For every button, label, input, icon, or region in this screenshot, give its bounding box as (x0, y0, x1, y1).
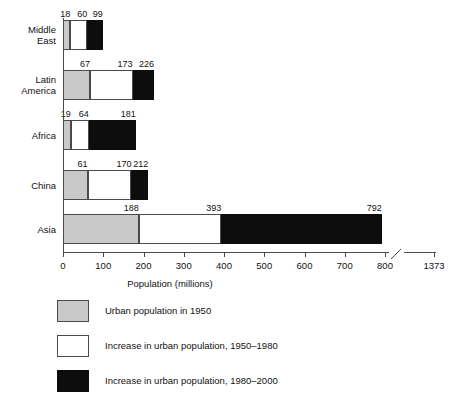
x-axis-tick (434, 252, 435, 257)
x-axis-tick (385, 252, 386, 257)
value-label: 64 (55, 109, 89, 119)
value-label: 181 (102, 109, 136, 119)
value-label: 67 (56, 59, 90, 69)
x-axis-tick-label: 600 (285, 260, 325, 271)
legend-swatch-urban1950 (57, 300, 89, 322)
x-axis-tick (264, 252, 265, 257)
legend-label: Increase in urban population, 1950–1980 (105, 340, 278, 352)
x-axis-tick (184, 252, 185, 257)
bar-segment-inc5080 (139, 214, 222, 244)
legend-item: Increase in urban population, 1950–1980 (57, 335, 397, 357)
legend-label: Increase in urban population, 1980–2000 (105, 375, 278, 387)
bar-segment-inc8000 (131, 170, 148, 200)
bar-segment-inc5080 (90, 70, 133, 100)
x-axis-tick (224, 252, 225, 257)
value-label: 212 (114, 159, 148, 169)
x-axis-line (63, 252, 389, 253)
x-axis-tick (63, 252, 64, 257)
x-axis-tick (305, 252, 306, 257)
legend-swatch-inc5080 (57, 335, 89, 357)
value-label: 393 (187, 203, 221, 213)
bar-segment-inc8000 (133, 70, 154, 100)
legend-item: Increase in urban population, 1980–2000 (57, 370, 397, 392)
bar-row (0, 70, 461, 100)
x-axis-tick-label: 100 (83, 260, 123, 271)
x-axis-tick-label: 200 (124, 260, 164, 271)
bar-row (0, 120, 461, 150)
legend-label: Urban population in 1950 (105, 305, 211, 317)
x-axis-tick (345, 252, 346, 257)
x-axis-tick-label: 400 (204, 260, 244, 271)
bar-segment-urban1950 (63, 120, 71, 150)
bar-segment-urban1950 (63, 20, 70, 50)
population-bar-chart: Middle East186099Latin America67173226Af… (0, 0, 461, 409)
bar-segment-inc5080 (70, 20, 87, 50)
x-axis-tick-label: 500 (244, 260, 284, 271)
bar-row (0, 170, 461, 200)
bar-segment-urban1950 (63, 70, 90, 100)
x-axis-title: Population (millions) (0, 278, 340, 289)
x-axis-tick-label: 800 (365, 260, 405, 271)
y-axis-line (63, 18, 64, 252)
legend-swatch-inc8000 (57, 370, 89, 392)
bar-segment-inc8000 (89, 120, 136, 150)
value-label: 792 (348, 203, 382, 213)
bar-segment-inc5080 (71, 120, 89, 150)
value-label: 99 (69, 9, 103, 19)
value-label: 61 (54, 159, 88, 169)
x-axis-tick (103, 252, 104, 257)
legend-item: Urban population in 1950 (57, 300, 397, 322)
bar-segment-inc8000 (221, 214, 382, 244)
bar-segment-inc5080 (88, 170, 132, 200)
bar-segment-urban1950 (63, 214, 139, 244)
bar-row (0, 20, 461, 50)
x-axis-tick-label: 700 (325, 260, 365, 271)
value-label: 188 (105, 203, 139, 213)
x-axis-tick-label: 300 (164, 260, 204, 271)
bar-segment-inc8000 (87, 20, 103, 50)
x-axis-tick-label: 1373 (414, 260, 454, 271)
value-label: 226 (120, 59, 154, 69)
x-axis-tick-label: 0 (43, 260, 83, 271)
x-axis-tick (144, 252, 145, 257)
bar-row (0, 214, 461, 244)
x-axis-line (404, 252, 436, 253)
bar-segment-urban1950 (63, 170, 88, 200)
